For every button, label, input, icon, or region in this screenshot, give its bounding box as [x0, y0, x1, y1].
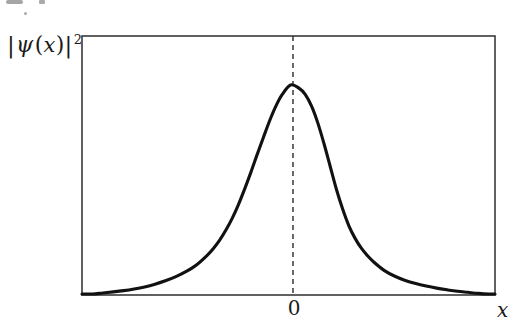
probability-density-curve	[82, 85, 495, 294]
plot-frame-border	[82, 36, 495, 295]
figure-container: |ψ(x)|2 0 x	[0, 0, 513, 336]
plot-area	[0, 0, 513, 336]
